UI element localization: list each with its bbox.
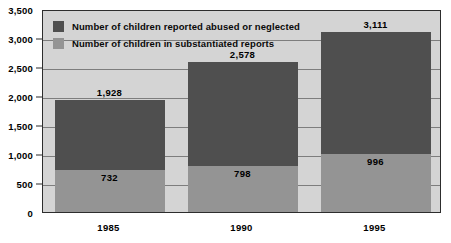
legend-label-substantiated: Number of children in substantiated repo…: [72, 38, 274, 49]
legend-item-reported: Number of children reported abused or ne…: [53, 19, 300, 33]
bar-value-label-substantiated: 732: [55, 172, 165, 183]
stacked-bar-chart: 05001,0001,5002,0002,5003,0003,500 1,928…: [0, 0, 451, 243]
bar-group[interactable]: 2,578798: [188, 62, 298, 212]
x-tick-label: 1990: [230, 222, 252, 233]
bar-value-label-total: 3,111: [321, 19, 431, 30]
legend-swatch-icon-reported: [53, 21, 64, 32]
y-tick-label: 0: [28, 208, 33, 219]
x-tick-label: 1985: [97, 222, 119, 233]
bar-group[interactable]: 1,928732: [55, 100, 165, 212]
y-tick-label: 2,000: [8, 92, 33, 103]
y-tick-label: 1,500: [8, 121, 33, 132]
y-tick-label: 1,000: [8, 150, 33, 161]
chart-legend: Number of children reported abused or ne…: [53, 19, 300, 53]
bar-value-label-substantiated: 798: [188, 168, 298, 179]
y-tick-label: 3,500: [8, 5, 33, 16]
legend-label-reported: Number of children reported abused or ne…: [72, 21, 300, 32]
bar-group[interactable]: 3,111996: [321, 32, 431, 212]
legend-item-substantiated: Number of children in substantiated repo…: [53, 36, 300, 50]
bar-value-label-substantiated: 996: [321, 156, 431, 167]
x-tick-label: 1995: [363, 222, 385, 233]
bar-value-label-total: 1,928: [55, 87, 165, 98]
y-tick-label: 2,500: [8, 63, 33, 74]
y-tick-label: 3,000: [8, 34, 33, 45]
y-axis: 05001,0001,5002,0002,5003,0003,500: [0, 0, 42, 243]
bar-segment-reported[interactable]: [55, 100, 165, 169]
x-axis: 198519901995: [42, 213, 441, 243]
bar-segment-reported[interactable]: [188, 62, 298, 165]
legend-swatch-icon-substantiated: [53, 38, 64, 49]
y-tick-label: 500: [17, 179, 33, 190]
bar-segment-reported[interactable]: [321, 32, 431, 155]
